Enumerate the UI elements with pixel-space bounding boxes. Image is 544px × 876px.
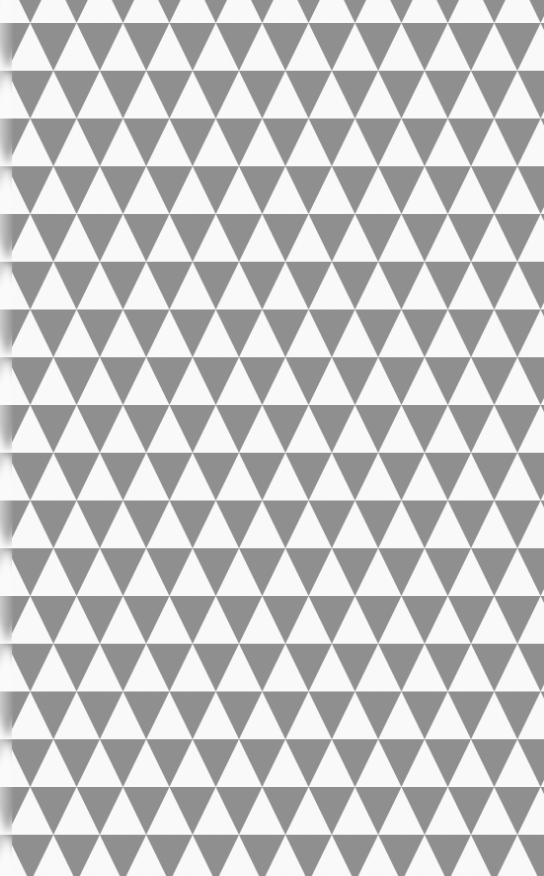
triangle-pattern (0, 0, 544, 876)
grain-overlay (0, 0, 544, 876)
